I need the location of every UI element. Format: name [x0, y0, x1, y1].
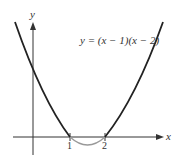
- x-axis-label: x: [166, 131, 171, 142]
- x-axis-arrow-icon: [156, 134, 164, 140]
- parabola-diagram: y x 1 2 y = (x − 1)(x − 2): [0, 0, 176, 162]
- y-axis-arrow-icon: [30, 22, 36, 30]
- equation-label: y = (x − 1)(x − 2): [80, 35, 159, 46]
- x-tick-label-1: 1: [67, 141, 72, 151]
- parabola-left-branch: [15, 22, 70, 137]
- y-axis-label: y: [30, 9, 35, 20]
- x-tick-label-2: 2: [102, 141, 107, 151]
- graph-canvas: [0, 0, 176, 162]
- parabola-below-axis: [70, 137, 105, 145]
